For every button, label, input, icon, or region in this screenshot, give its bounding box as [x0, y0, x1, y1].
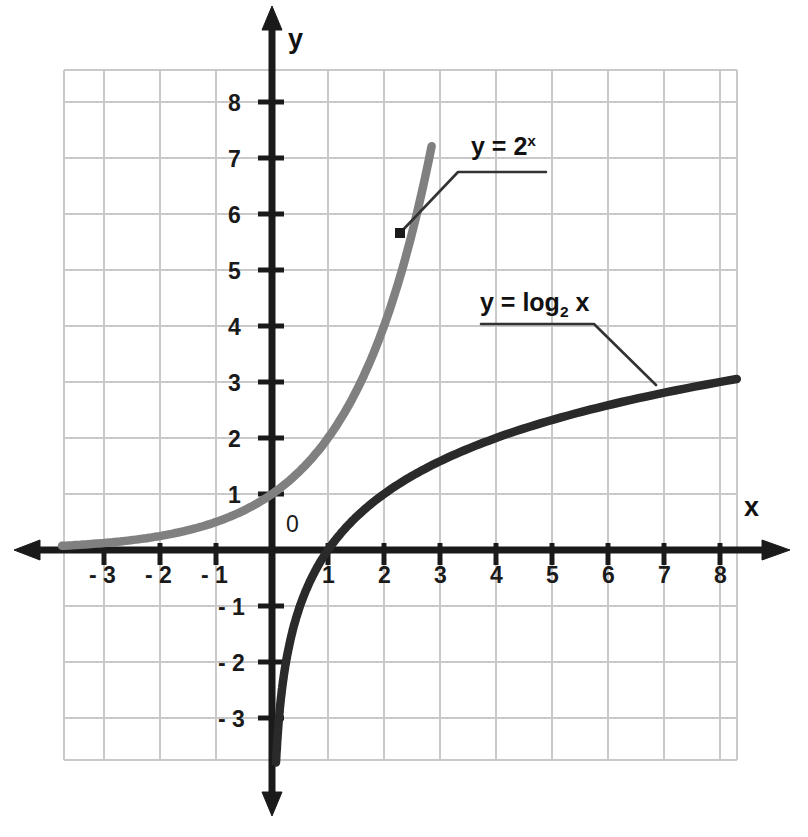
- axis-lines: [14, 6, 790, 816]
- x-tick-label-8: 8: [714, 564, 727, 587]
- curve-label-exponential: y = 2x: [471, 134, 536, 159]
- y-tick-label--1: - 1: [218, 596, 245, 619]
- arrow-up-icon: [262, 6, 282, 30]
- x-tick-label-5: 5: [546, 564, 559, 587]
- y-tick-label-8: 8: [228, 92, 241, 115]
- x-tick-label-4: 4: [490, 564, 503, 587]
- curve-label-exponential-text: y = 2: [471, 132, 527, 160]
- curve-label-exponential-exponent: x: [527, 132, 536, 149]
- leader-dot-exponential: [395, 228, 405, 238]
- arrow-left-icon: [14, 540, 40, 560]
- coordinate-plane-svg: [0, 0, 808, 837]
- x-axis-label: x: [744, 494, 759, 521]
- y-tick-label-1: 1: [228, 484, 241, 507]
- axis-ticks: [104, 102, 720, 718]
- curve-label-logarithmic-base: 2: [560, 303, 569, 320]
- leader-line-logarithmic: [481, 324, 656, 385]
- x-tick-label-2: 2: [378, 564, 391, 587]
- graph-figure: - 3 - 2 - 1 1 2 3 4 5 6 7 8 8 7 6 5 4 3 …: [0, 0, 808, 837]
- y-tick-label-3: 3: [228, 372, 241, 395]
- y-tick-label--3: - 3: [218, 708, 245, 731]
- y-axis-label: y: [288, 26, 303, 53]
- y-tick-label-2: 2: [228, 428, 241, 451]
- curve-label-logarithmic-text: y = log: [480, 288, 560, 316]
- x-tick-label-3: 3: [434, 564, 447, 587]
- y-tick-label-6: 6: [228, 204, 241, 227]
- grid-lines: [64, 70, 737, 760]
- x-tick-label-6: 6: [602, 564, 615, 587]
- curve-label-logarithmic-tail: x: [569, 288, 590, 316]
- curve-label-logarithmic: y = log2 x: [480, 290, 589, 315]
- x-tick-label--3: - 3: [89, 564, 116, 587]
- y-tick-label-7: 7: [228, 148, 241, 171]
- x-tick-label--2: - 2: [145, 564, 172, 587]
- x-tick-label-7: 7: [658, 564, 671, 587]
- y-tick-label--2: - 2: [218, 652, 245, 675]
- x-tick-label-1: 1: [322, 564, 335, 587]
- origin-label: 0: [286, 513, 299, 536]
- arrow-right-icon: [762, 540, 790, 560]
- y-tick-label-4: 4: [228, 316, 241, 339]
- arrow-down-icon: [262, 792, 282, 816]
- x-tick-label--1: - 1: [201, 564, 228, 587]
- y-tick-label-5: 5: [228, 260, 241, 283]
- curve-exponential: [62, 146, 432, 546]
